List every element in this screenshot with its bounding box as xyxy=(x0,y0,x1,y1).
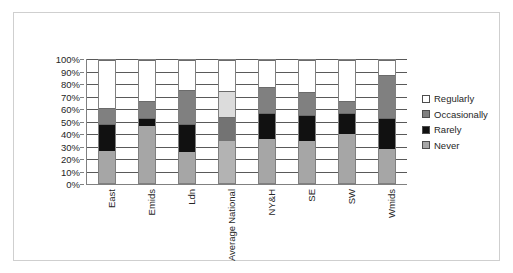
x-axis-label-line: East xyxy=(106,189,117,208)
y-axis-tick-label: 100% xyxy=(56,55,80,64)
bar-segment-occasionally[interactable] xyxy=(179,90,195,124)
bar-segment-never[interactable] xyxy=(139,126,155,183)
y-axis-tick-mark xyxy=(80,59,84,60)
bar-slot xyxy=(167,59,207,184)
bar-segment-never[interactable] xyxy=(299,141,315,183)
x-axis-tick-label: Emids xyxy=(126,186,166,256)
stacked-bar[interactable] xyxy=(98,59,116,184)
y-axis-tick-label: 0% xyxy=(66,180,80,189)
chart-frame: 0%10%20%30%40%50%60%70%80%90%100% EastEm… xyxy=(13,12,500,261)
bar-segment-occasionally[interactable] xyxy=(299,92,315,115)
bar-segment-occasionally[interactable] xyxy=(339,101,355,113)
bar-segment-occasionally[interactable] xyxy=(379,75,395,118)
x-axis-label-line: Emids xyxy=(146,189,157,215)
stacked-bar[interactable] xyxy=(218,59,236,184)
bar-slot xyxy=(207,59,247,184)
bar-segment-rarely[interactable] xyxy=(299,115,315,141)
x-axis-label-line: SE xyxy=(306,189,317,202)
bar-segment-never[interactable] xyxy=(379,149,395,183)
bar-segment-regularly[interactable] xyxy=(339,60,355,101)
bar-slot xyxy=(327,59,367,184)
x-axis-label-text: NY&H xyxy=(266,189,277,215)
stacked-bar[interactable] xyxy=(298,59,316,184)
x-axis-tick-label: SE xyxy=(286,186,326,256)
legend-label: Never xyxy=(434,140,459,151)
bar-segment-never[interactable] xyxy=(99,151,115,183)
legend-item[interactable]: Never xyxy=(422,138,510,154)
y-axis-tick-mark xyxy=(80,97,84,98)
chart-legend: RegularlyOccasionallyRarelyNever xyxy=(422,91,510,153)
y-axis-tick-label: 70% xyxy=(61,92,80,101)
bar-segment-rarely[interactable] xyxy=(219,117,235,142)
bar-segment-regularly[interactable] xyxy=(379,60,395,75)
y-axis-tick-mark xyxy=(80,72,84,73)
bar-segment-occasionally[interactable] xyxy=(139,101,155,118)
chart-container: 0%10%20%30%40%50%60%70%80%90%100% EastEm… xyxy=(0,0,513,273)
bar-segment-never[interactable] xyxy=(179,152,195,183)
legend-label: Regularly xyxy=(434,93,474,104)
y-axis-tick-mark xyxy=(80,184,84,185)
bar-slot xyxy=(127,59,167,184)
bar-segment-rarely[interactable] xyxy=(339,113,355,134)
legend-swatch-icon xyxy=(422,126,430,134)
x-axis-tick-label: SW xyxy=(326,186,366,256)
legend-label: Rarely xyxy=(434,124,461,135)
bar-slot xyxy=(247,59,287,184)
bar-segment-occasionally[interactable] xyxy=(259,87,275,113)
legend-swatch-icon xyxy=(422,110,430,118)
y-axis-tick-mark xyxy=(80,109,84,110)
legend-swatch-icon xyxy=(422,141,430,149)
y-axis-tick-mark xyxy=(80,159,84,160)
bar-segment-regularly[interactable] xyxy=(259,60,275,87)
x-axis-label-line: NY&H xyxy=(266,189,277,215)
x-axis-label-text: SW xyxy=(346,189,357,204)
x-axis-label-text: SE xyxy=(306,189,317,202)
x-axis-tick-label: NY&H xyxy=(246,186,286,256)
y-axis-tick-label: 30% xyxy=(61,142,80,151)
bar-segment-never[interactable] xyxy=(259,139,275,183)
bar-slot xyxy=(367,59,407,184)
x-axis-label-line: Average xyxy=(226,226,237,261)
bar-segment-rarely[interactable] xyxy=(379,118,395,149)
x-axis-tick-label: Ldn xyxy=(166,186,206,256)
bar-segment-rarely[interactable] xyxy=(99,124,115,151)
legend-item[interactable]: Rarely xyxy=(422,122,510,138)
stacked-bar[interactable] xyxy=(178,59,196,184)
x-axis-tick-label: East xyxy=(86,186,126,256)
plot-area xyxy=(86,59,407,185)
bar-segment-rarely[interactable] xyxy=(139,118,155,127)
bar-segment-regularly[interactable] xyxy=(179,60,195,90)
y-axis-tick-label: 10% xyxy=(61,167,80,176)
y-axis-tick-label: 90% xyxy=(61,67,80,76)
bar-segment-rarely[interactable] xyxy=(179,124,195,152)
y-axis-tick-mark xyxy=(80,134,84,135)
stacked-bar[interactable] xyxy=(138,59,156,184)
legend-item[interactable]: Regularly xyxy=(422,91,510,107)
bar-segment-regularly[interactable] xyxy=(99,60,115,108)
y-axis-tick-label: 50% xyxy=(61,117,80,126)
bar-segment-occasionally[interactable] xyxy=(219,91,235,117)
stacked-bar[interactable] xyxy=(338,59,356,184)
x-axis-label-line: Ldn xyxy=(186,189,197,205)
x-axis-label-text: NationalAverage xyxy=(226,189,237,261)
x-axis-label-text: East xyxy=(106,189,117,208)
stacked-bar[interactable] xyxy=(258,59,276,184)
bar-segment-never[interactable] xyxy=(219,141,235,183)
stacked-bar[interactable] xyxy=(378,59,396,184)
bar-segment-regularly[interactable] xyxy=(299,60,315,92)
bar-segment-regularly[interactable] xyxy=(139,60,155,101)
x-axis-tick-label: NationalAverage xyxy=(206,186,246,256)
x-axis-label-text: Emids xyxy=(146,189,157,215)
bar-segment-regularly[interactable] xyxy=(219,60,235,91)
bar-segment-rarely[interactable] xyxy=(259,113,275,139)
legend-item[interactable]: Occasionally xyxy=(422,107,510,123)
y-axis-tick-mark xyxy=(80,147,84,148)
x-axis-label-text: Wmids xyxy=(386,189,397,218)
x-axis-tick-label: Wmids xyxy=(366,186,406,256)
legend-label: Occasionally xyxy=(434,109,488,120)
y-axis-tick-label: 20% xyxy=(61,155,80,164)
y-axis-tick-label: 40% xyxy=(61,130,80,139)
x-axis-label-line: SW xyxy=(346,189,357,204)
bar-segment-occasionally[interactable] xyxy=(99,108,115,124)
bar-segment-never[interactable] xyxy=(339,134,355,183)
